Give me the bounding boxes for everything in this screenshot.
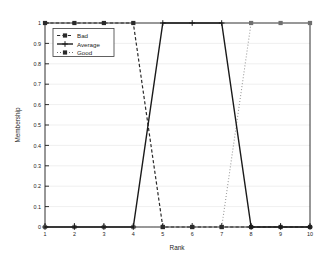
x-tick-label: 1	[44, 231, 47, 237]
x-tick-label: 9	[279, 231, 282, 237]
y-axis-title: Membership	[14, 107, 22, 143]
figure-container: 0 0.1 0.2 0.3 0.4 0.5 0.6 0.7 0.8 0.9 1 …	[0, 0, 325, 268]
x-axis-title: Rank	[170, 244, 186, 251]
y-tick-label: 0.4	[34, 143, 42, 149]
x-tick-label: 3	[102, 231, 105, 237]
legend-swatch-bad-marker	[63, 33, 67, 37]
y-tick-label: 0	[38, 224, 41, 230]
x-tick-label: 2	[73, 231, 76, 237]
legend-swatch-good-marker	[63, 50, 67, 54]
x-tick-label: 10	[307, 231, 313, 237]
y-tick-label: 1	[38, 20, 41, 26]
x-tick-label: 7	[220, 231, 223, 237]
legend-label-bad: Bad	[77, 32, 89, 39]
y-tick-label: 0.9	[34, 41, 42, 47]
x-tick-label: 6	[191, 231, 194, 237]
y-tick-label: 0.2	[34, 183, 42, 189]
y-tick-label: 0.5	[34, 122, 42, 128]
x-tick-label: 8	[250, 231, 253, 237]
y-tick-label: 0.3	[34, 163, 42, 169]
legend[interactable]: Bad Average Good	[53, 29, 114, 57]
x-tick-label: 5	[161, 231, 164, 237]
legend-label-average: Average	[77, 41, 100, 48]
y-tick-label: 0.6	[34, 102, 42, 108]
membership-function-chart: 0 0.1 0.2 0.3 0.4 0.5 0.6 0.7 0.8 0.9 1 …	[0, 0, 325, 268]
legend-label-good: Good	[77, 49, 93, 56]
y-tick-label: 0.8	[34, 61, 42, 67]
x-tick-label: 4	[132, 231, 135, 237]
y-tick-label: 0.7	[34, 81, 42, 87]
y-tick-label: 0.1	[34, 204, 42, 210]
